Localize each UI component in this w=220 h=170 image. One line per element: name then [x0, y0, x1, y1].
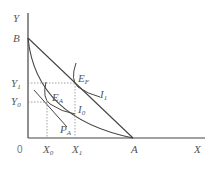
- price-line-PA-label: PA: [59, 123, 72, 137]
- y-axis-label: Y: [13, 12, 21, 24]
- point-B-label: B: [13, 32, 20, 44]
- origin-label: 0: [17, 144, 23, 155]
- y0-label: Y0: [11, 95, 21, 109]
- x-axis-label: X: [193, 143, 202, 155]
- budget-line-BA: [28, 38, 133, 138]
- point-A-label: A: [130, 143, 138, 155]
- x1-label: X1: [71, 143, 82, 157]
- x0-label: X0: [42, 143, 54, 157]
- point-EA-label: EA: [51, 91, 64, 105]
- curve-I1-label: I1: [99, 88, 107, 102]
- curve-I0-label: I0: [77, 103, 86, 117]
- y1-label: Y1: [11, 77, 21, 91]
- economics-diagram: Y B Y1 Y0 EF I1 EA I0 PA 0 X0 X1 A X: [0, 0, 220, 170]
- point-EF-label: EF: [77, 72, 90, 86]
